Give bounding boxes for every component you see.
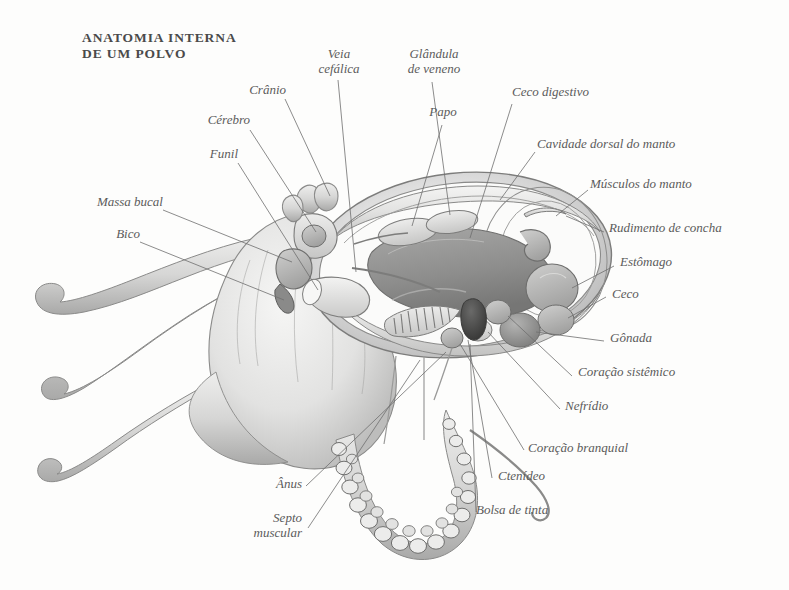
label-cerebro: Cérebro [150, 112, 250, 127]
organ-stomach [526, 264, 578, 312]
label-musculos-do-manto: Músculos do manto [590, 176, 770, 191]
label-anus: Ânus [216, 476, 302, 491]
label-coracao-branquial: Coração branquial [528, 440, 718, 455]
label-massa-bucal: Massa bucal [38, 194, 163, 209]
label-nefridio: Nefrídio [565, 398, 695, 413]
label-glandula-de-veneno: Glândula de veneno [388, 46, 480, 76]
label-ceco: Ceco [612, 286, 732, 301]
label-papo: Papo [412, 104, 474, 119]
organ-systemic-heart [485, 300, 511, 324]
label-gonada: Gônada [610, 330, 740, 345]
label-ctenideo: Ctenídeo [498, 468, 628, 483]
label-funil: Funil [148, 146, 238, 161]
label-septo-muscular: Septo muscular [196, 510, 302, 540]
organ-brain [302, 225, 326, 247]
organ-ink-sac [461, 299, 486, 340]
label-estomago: Estômago [620, 254, 760, 269]
label-bolsa-de-tinta: Bolsa de tinta [476, 502, 636, 517]
organ-branchial-heart [441, 328, 463, 348]
organ-caecum [538, 305, 574, 335]
anatomy-figure: Anatomia interna de um polvo Crânio Cére… [0, 0, 789, 590]
page-title: Anatomia interna de um polvo [82, 30, 237, 62]
label-veia-cefalica: Veia cefálica [300, 46, 378, 76]
label-coracao-sistemico: Coração sistêmico [578, 364, 758, 379]
label-ceco-digestivo: Ceco digestivo [512, 84, 652, 99]
label-rudimento-de-concha: Rudimento de concha [609, 220, 789, 235]
label-cavidade-dorsal-do-manto: Cavidade dorsal do manto [537, 136, 757, 151]
label-cranio: Crânio [186, 82, 286, 97]
label-bico: Bico [50, 226, 140, 241]
